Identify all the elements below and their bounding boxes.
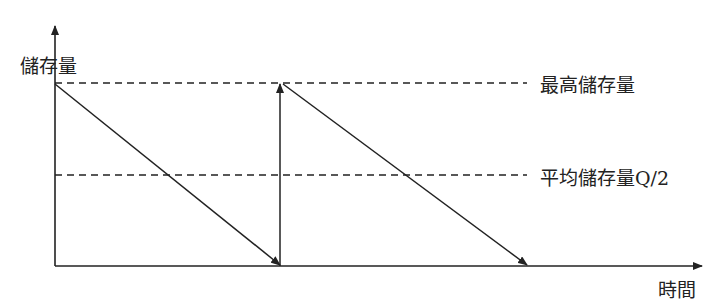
inventory-diagram xyxy=(0,0,725,305)
y-axis-label: 儲存量 xyxy=(20,52,42,80)
max-inventory-label: 最高儲存量 xyxy=(540,70,635,97)
avg-inventory-label: 平均儲存量Q/2 xyxy=(540,163,669,190)
depletion-arrow-1 xyxy=(55,84,280,265)
x-axis-label: 時間 xyxy=(658,275,696,302)
